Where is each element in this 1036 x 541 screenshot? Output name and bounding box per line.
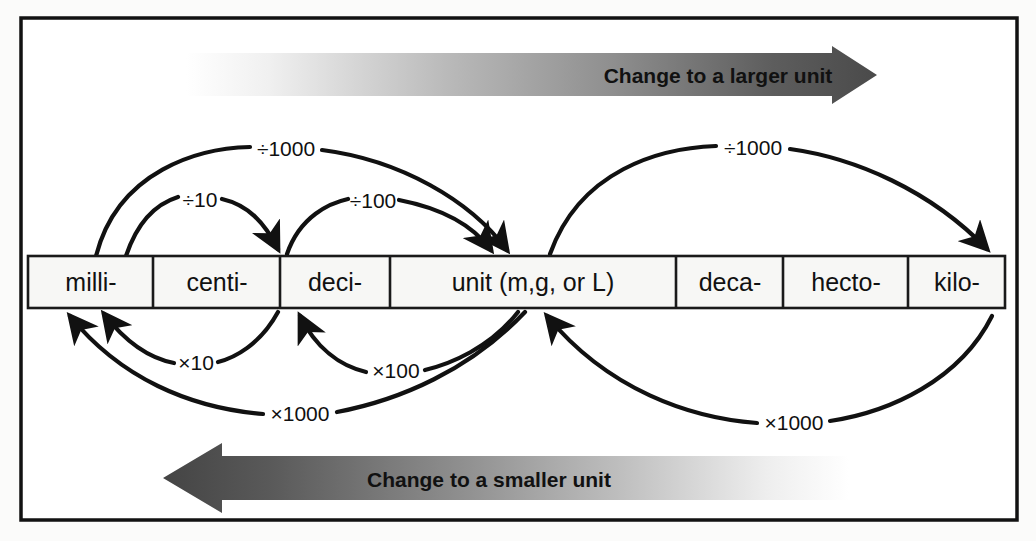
banner-smaller-unit-label: Change to a smaller unit — [367, 468, 611, 491]
unit-cell-unit: unit (m,g, or L) — [452, 268, 615, 296]
arc-label-divide-1000-right: ÷1000 — [724, 136, 782, 159]
diagram-canvas: Change to a larger unit Change to a smal… — [0, 0, 1036, 541]
metric-conversion-figure: Change to a larger unit Change to a smal… — [0, 0, 1036, 541]
unit-scale-row: milli- centi- deci- unit (m,g, or L) dec… — [28, 256, 1005, 308]
arc-label-multiply-100: ×100 — [372, 359, 419, 382]
arc-label-divide-100: ÷100 — [350, 189, 397, 212]
unit-cell-hecto: hecto- — [811, 268, 880, 296]
unit-cell-deca: deca- — [699, 268, 762, 296]
arc-label-multiply-1000-left: ×1000 — [271, 402, 330, 425]
unit-cell-centi: centi- — [186, 268, 247, 296]
arc-label-multiply-10: ×10 — [178, 351, 214, 374]
arc-label-divide-1000-left: ÷1000 — [257, 137, 315, 160]
banner-larger-unit: Change to a larger unit — [186, 46, 877, 104]
unit-cell-milli: milli- — [65, 268, 116, 296]
arc-label-divide-10: ÷10 — [183, 188, 218, 211]
unit-cell-kilo: kilo- — [934, 268, 980, 296]
unit-cell-deci: deci- — [308, 268, 362, 296]
arc-label-multiply-1000-right: ×1000 — [765, 411, 824, 434]
banner-larger-unit-label: Change to a larger unit — [604, 64, 833, 87]
